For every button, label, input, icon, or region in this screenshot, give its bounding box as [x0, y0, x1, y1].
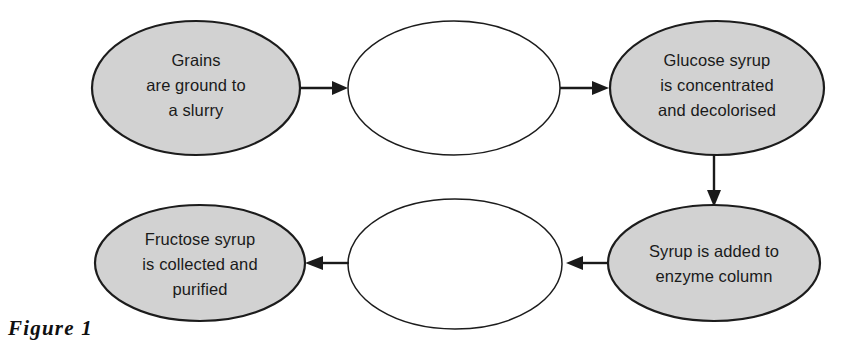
connector-blank-bottom-to-fructose: [305, 256, 349, 270]
connector-grains-to-blank-top: [301, 81, 348, 95]
node-enzyme-column-line-2: enzyme column: [656, 267, 773, 285]
node-grains-line-3: a slurry: [169, 101, 225, 119]
node-glucose-syrup: Glucose syrup is concentrated and decolo…: [610, 21, 824, 155]
node-grains-line-1: Grains: [171, 51, 220, 69]
node-grains: Grains are ground to a slurry: [92, 21, 300, 155]
connector-enzyme-to-blank-bottom: [566, 256, 608, 270]
figure-flow-chart: Grains are ground to a slurry Glucose sy…: [0, 0, 841, 354]
flow-chart-canvas: Grains are ground to a slurry Glucose sy…: [0, 0, 841, 354]
node-fructose-syrup: Fructose syrup is collected and purified: [95, 205, 305, 321]
node-fructose-syrup-line-1: Fructose syrup: [145, 230, 256, 248]
connector-glucose-to-enzyme: [707, 155, 721, 207]
node-enzyme-column-shape: [608, 205, 820, 321]
node-glucose-syrup-line-3: and decolorised: [658, 101, 776, 119]
node-enzyme-column: Syrup is added to enzyme column: [608, 205, 820, 321]
node-blank-bottom-middle: [348, 199, 562, 329]
connector-blank-top-to-glucose: [560, 81, 609, 95]
node-fructose-syrup-line-2: is collected and: [142, 255, 257, 273]
node-blank-top-middle: [348, 21, 560, 155]
node-fructose-syrup-line-3: purified: [173, 280, 228, 298]
arrow-head-left-icon: [305, 256, 323, 270]
node-blank-top-middle-shape: [348, 21, 560, 155]
arrow-head-right-icon: [332, 81, 348, 95]
node-grains-line-2: are ground to: [146, 76, 245, 94]
figure-caption: Figure 1: [8, 316, 93, 341]
arrow-head-right-icon: [592, 81, 609, 95]
node-blank-bottom-middle-shape: [348, 199, 562, 329]
node-glucose-syrup-line-2: is concentrated: [660, 76, 773, 94]
node-glucose-syrup-line-1: Glucose syrup: [664, 51, 771, 69]
arrow-head-left-icon: [566, 256, 583, 270]
node-enzyme-column-line-1: Syrup is added to: [649, 242, 779, 260]
